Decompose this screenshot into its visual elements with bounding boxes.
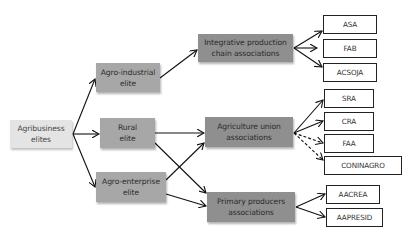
- node-sra: SRA: [324, 89, 374, 108]
- node-label-line2: associations: [217, 132, 281, 143]
- node-label: AACREA: [339, 189, 368, 200]
- node-label-line2: associations: [217, 207, 285, 218]
- edge-primary-aacrea: [296, 194, 325, 207]
- edge-agro-enterprise-agri-union: [166, 143, 204, 180]
- node-label-line1: Rural: [118, 122, 137, 133]
- node-asa: ASA: [323, 15, 377, 34]
- node-primary-producers-associations: Primary producers associations: [207, 192, 295, 222]
- node-label-line1: Agriculture union: [217, 121, 281, 132]
- node-label-line2: elites: [17, 134, 64, 145]
- node-label-line2: chain associations: [204, 48, 287, 59]
- node-label: CRA: [342, 116, 356, 127]
- node-faa: FAA: [324, 134, 374, 153]
- node-label: ACSOJA: [337, 67, 363, 78]
- edge-primary-aapresid: [296, 207, 325, 217]
- edge-agri-union-cra: [294, 121, 323, 133]
- edge-integrative-asa: [294, 31, 322, 48]
- node-label-line1: Primary producers: [217, 196, 285, 207]
- node-label-line1: Agro-industrial: [101, 67, 155, 78]
- node-rural-elite: Rural elite: [100, 118, 155, 148]
- node-agro-enterprise-elite: Agro-enterprise elite: [96, 172, 166, 202]
- edge-root-agro-industrial: [73, 79, 95, 134]
- edge-agro-industrial-integrative: [160, 50, 197, 78]
- node-label: FAA: [342, 138, 355, 149]
- node-label: CONINAGRO: [341, 160, 385, 171]
- node-agriculture-union-associations: Agriculture union associations: [205, 117, 293, 147]
- node-label: SRA: [342, 93, 356, 104]
- node-agribusiness-elites: Agribusiness elites: [10, 120, 72, 148]
- node-label: AAPRESID: [337, 212, 372, 223]
- node-cra: CRA: [324, 112, 374, 131]
- node-label-line1: Agribusiness: [17, 123, 64, 134]
- node-aacrea: AACREA: [326, 185, 380, 204]
- node-coninagro: CONINAGRO: [324, 156, 402, 175]
- edge-agri-union-coninagro: [294, 133, 323, 160]
- diagram-canvas: Agribusiness elites Agro-industrial elit…: [0, 0, 414, 238]
- node-agro-industrial-elite: Agro-industrial elite: [96, 63, 160, 92]
- node-label: FAB: [343, 43, 356, 54]
- edge-agri-union-faa: [294, 133, 323, 143]
- node-label-line1: Agro-enterprise: [102, 176, 160, 187]
- node-fab: FAB: [323, 39, 377, 58]
- node-label-line1: Integrative production: [204, 37, 287, 48]
- node-acsoja: ACSOJA: [323, 63, 377, 82]
- node-integrative-production-chain-associations: Integrative production chain association…: [198, 34, 293, 62]
- node-label-line2: elite: [102, 187, 160, 198]
- edge-agri-union-sra: [294, 100, 323, 133]
- edge-root-agro-enterprise: [73, 134, 95, 187]
- node-aapresid: AAPRESID: [326, 208, 383, 227]
- edge-agro-enterprise-primary: [166, 194, 206, 206]
- node-label-line2: elite: [118, 133, 137, 144]
- edge-integrative-acsoja: [294, 48, 322, 67]
- node-label: ASA: [343, 19, 357, 30]
- node-label-line2: elite: [101, 78, 155, 89]
